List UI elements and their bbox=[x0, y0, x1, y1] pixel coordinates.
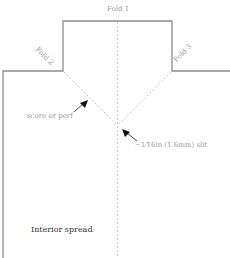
interior-spread-label: Interior spread bbox=[31, 226, 93, 234]
slit-arrow-icon bbox=[122, 129, 137, 141]
right-diagonal-score-line bbox=[119, 72, 171, 124]
score-label: score or perf bbox=[27, 113, 73, 120]
fold1-label: Fold 1 bbox=[107, 6, 129, 13]
outline-cut-line bbox=[3, 21, 230, 258]
score-arrow-icon bbox=[74, 100, 88, 112]
fold-diagram bbox=[0, 0, 230, 258]
slit-label: ~1⁄16in (1.6mm) slit bbox=[135, 142, 207, 149]
